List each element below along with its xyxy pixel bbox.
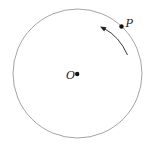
point-p-dot (119, 24, 123, 28)
center-o-dot (75, 72, 79, 76)
point-p-label: P (125, 17, 134, 30)
diagram-canvas: P O (0, 0, 150, 145)
motion-arrow-arc (104, 29, 128, 56)
arrowhead-icon (100, 27, 107, 32)
center-o-label: O (66, 69, 75, 82)
